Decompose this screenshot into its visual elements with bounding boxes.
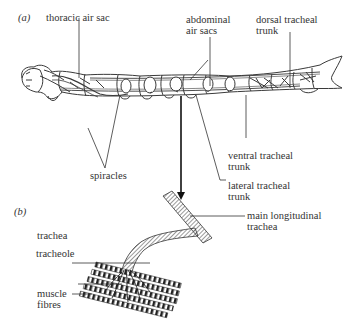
label-dorsal-tracheal-trunk: dorsal tracheal trunk <box>256 14 318 36</box>
label-abdominal-air-sacs: abdominal air sacs <box>186 14 230 36</box>
panel-b-label: (b) <box>14 206 26 217</box>
label-lateral-tracheal-trunk: lateral tracheal trunk <box>228 180 290 202</box>
label-ventral-tracheal-trunk: ventral tracheal trunk <box>228 150 293 172</box>
larva-body <box>22 56 342 101</box>
trachea-detail <box>79 191 212 319</box>
panel-a-label: (a) <box>18 12 30 23</box>
label-thoracic-air-sac: thoracic air sac <box>46 12 110 23</box>
insect-tracheal-system-diagram <box>0 0 358 320</box>
label-spiracles: spiracles <box>90 170 127 181</box>
label-muscle-fibres: muscle fibres <box>37 288 67 310</box>
label-tracheole: tracheole <box>36 248 74 259</box>
label-trachea: trachea <box>37 230 67 241</box>
magnify-arrow <box>177 96 185 200</box>
label-main-longitudinal-trachea: main longitudinal trachea <box>247 210 321 232</box>
